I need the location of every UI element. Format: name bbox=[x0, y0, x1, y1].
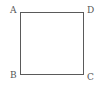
vertex-label-d: D bbox=[87, 6, 94, 15]
vertex-label-b: B bbox=[10, 71, 17, 80]
square-shape bbox=[20, 12, 84, 75]
vertex-label-a: A bbox=[10, 6, 17, 15]
vertex-label-c: C bbox=[87, 73, 94, 82]
